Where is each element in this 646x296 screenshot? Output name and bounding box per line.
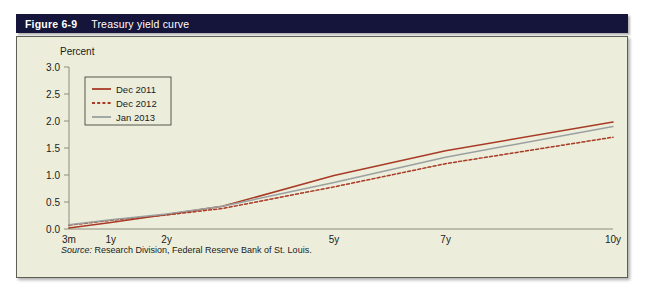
x-axis-tick-label: 5y [329,234,340,245]
series-line-dec-2011 [69,122,613,228]
figure-number: Figure 6-9 [25,18,77,30]
y-axis-title: Percent [60,46,95,57]
figure-panel: Percent0.00.51.01.52.02.53.03m1y2y5y7y10… [16,36,628,278]
figure-container: Figure 6-9 Treasury yield curve Percent0… [0,0,646,296]
yield-curve-chart: Percent0.00.51.01.52.02.53.03m1y2y5y7y10… [17,37,627,277]
y-axis-tick-label: 1.0 [46,170,60,181]
legend-label-jan-2013: Jan 2013 [116,112,155,123]
legend-label-dec-2012: Dec 2012 [116,98,157,109]
x-axis-tick-label: 7y [440,234,451,245]
x-axis-tick-label: 2y [161,234,172,245]
figure-title: Treasury yield curve [91,18,189,30]
chart-plot-area: Percent0.00.51.01.52.02.53.03m1y2y5y7y10… [17,37,627,277]
x-axis-tick-label: 1y [106,234,117,245]
series-line-jan-2013 [69,126,613,224]
y-axis-tick-label: 1.5 [46,143,60,154]
source-text: Research Division, Federal Reserve Bank … [92,245,312,255]
y-axis-tick-label: 0.5 [46,197,60,208]
y-axis-tick-label: 3.0 [46,62,60,73]
source-label: Source: [61,245,92,255]
x-axis-tick-label: 10y [605,234,621,245]
source-note: Source: Research Division, Federal Reser… [61,245,312,255]
y-axis-tick-label: 2.5 [46,89,60,100]
y-axis-tick-label: 2.0 [46,116,60,127]
y-axis-tick-label: 0.0 [46,224,60,235]
figure-header: Figure 6-9 Treasury yield curve [16,14,628,33]
legend-label-dec-2011: Dec 2011 [116,84,156,95]
x-axis-tick-label: 3m [62,234,76,245]
